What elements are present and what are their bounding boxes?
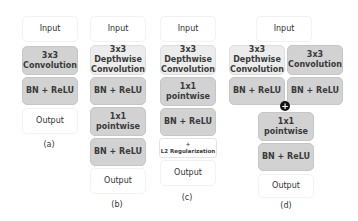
c-l2-regularization-block: + L2 Regularization: [159, 138, 217, 158]
c-depthwise-block: 3x3 Depthwise Convolution: [160, 45, 216, 75]
d-bn-relu-label-right: BN + ReLU: [291, 86, 339, 96]
b-bn-relu-block-2: BN + ReLU: [90, 138, 146, 166]
b-input-label: Input: [108, 24, 129, 34]
b-bn-relu-label-1: BN + ReLU: [94, 86, 142, 96]
a-output-block: Output: [22, 108, 78, 134]
d-bn-relu-block-left: BN + ReLU: [229, 77, 285, 105]
a-conv3x3-label: 3x3 Convolution: [23, 51, 77, 71]
d-depthwise-label: 3x3 Depthwise Convolution: [230, 45, 284, 75]
c-output-label: Output: [174, 168, 202, 178]
b-output-label: Output: [104, 176, 132, 186]
d-conv3x3-label: 3x3 Convolution: [288, 50, 342, 70]
d-output-label: Output: [272, 181, 300, 191]
d-pointwise-block: 1x1 pointwise: [258, 112, 314, 141]
c-caption: (c): [172, 193, 202, 202]
b-bn-relu-label-2: BN + ReLU: [94, 147, 142, 157]
c-bn-relu-label: BN + ReLU: [164, 117, 212, 127]
c-pointwise-label: 1x1 pointwise: [166, 82, 210, 102]
d-bn-relu-label-bottom: BN + ReLU: [262, 152, 310, 162]
c-input-label: Input: [178, 24, 199, 34]
c-l2-regularization-label: + L2 Regularization: [161, 141, 215, 155]
d-output-block: Output: [258, 174, 314, 198]
d-add-merge-icon: +: [280, 101, 290, 111]
a-bn-relu-block: BN + ReLU: [22, 77, 78, 105]
b-output-block: Output: [90, 168, 146, 194]
a-conv3x3-block: 3x3 Convolution: [22, 46, 78, 75]
b-depthwise-label: 3x3 Depthwise Convolution: [91, 45, 145, 75]
a-input-block: Input: [22, 16, 78, 42]
c-input-block: Input: [160, 16, 216, 42]
d-bn-relu-block-bottom: BN + ReLU: [258, 143, 314, 171]
a-output-label: Output: [36, 116, 64, 126]
d-bn-relu-label-left: BN + ReLU: [233, 86, 281, 96]
d-input-block: Input: [256, 16, 312, 42]
c-depthwise-label: 3x3 Depthwise Convolution: [161, 45, 215, 75]
a-caption: (a): [34, 140, 64, 149]
b-input-block: Input: [90, 16, 146, 42]
d-input-label: Input: [274, 24, 295, 34]
b-caption: (b): [102, 200, 132, 209]
c-bn-relu-block: BN + ReLU: [160, 108, 216, 136]
d-bn-relu-block-right: BN + ReLU: [287, 77, 343, 105]
d-caption: (d): [271, 201, 301, 210]
c-output-block: Output: [160, 160, 216, 186]
b-pointwise-label: 1x1 pointwise: [96, 112, 140, 132]
d-depthwise-block: 3x3 Depthwise Convolution: [229, 45, 285, 75]
d-conv3x3-block: 3x3 Convolution: [287, 45, 343, 75]
b-pointwise-block: 1x1 pointwise: [90, 107, 146, 136]
a-bn-relu-label: BN + ReLU: [26, 86, 74, 96]
b-depthwise-block: 3x3 Depthwise Convolution: [90, 45, 146, 75]
d-pointwise-label: 1x1 pointwise: [264, 117, 308, 137]
a-input-label: Input: [40, 24, 61, 34]
c-pointwise-block: 1x1 pointwise: [160, 77, 216, 106]
b-bn-relu-block-1: BN + ReLU: [90, 77, 146, 105]
